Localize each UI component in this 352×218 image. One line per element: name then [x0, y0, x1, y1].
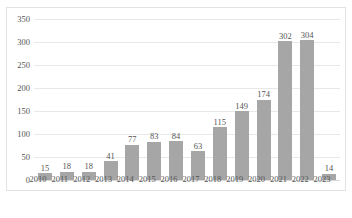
- x-axis-tick-label: 2012: [71, 172, 93, 184]
- bar-series: 151818417783846311514917430230414: [34, 19, 340, 180]
- bar-slot: 83: [143, 19, 165, 180]
- x-axis-tick-label: 2020: [246, 172, 268, 184]
- y-axis-tick-label: 150: [17, 107, 30, 116]
- plot-frame: 050100150200250300350 151818417783846311…: [6, 7, 346, 191]
- bar[interactable]: [257, 100, 271, 180]
- bar-slot: 63: [187, 19, 209, 180]
- bar-slot: 304: [296, 19, 318, 180]
- x-axis-tick-label: 2018: [202, 172, 224, 184]
- x-axis-tick-label: 2010: [27, 172, 49, 184]
- bar-value-label: 115: [214, 118, 226, 127]
- y-axis-tick-label: 200: [17, 84, 30, 93]
- bar-slot: 174: [253, 19, 275, 180]
- x-axis-tick-label: 2013: [93, 172, 115, 184]
- bar[interactable]: [235, 111, 249, 180]
- bar-slot: 18: [56, 19, 78, 180]
- bar-value-label: 18: [84, 162, 93, 171]
- y-axis-tick-label: 100: [17, 130, 30, 139]
- bar-slot: 302: [274, 19, 296, 180]
- bar-slot: 84: [165, 19, 187, 180]
- x-axis-tick-label: 2023: [311, 172, 333, 184]
- x-axis-tick-label: 2011: [49, 172, 71, 184]
- y-axis-tick-label: 50: [22, 153, 31, 162]
- x-axis-tick-label: 2014: [114, 172, 136, 184]
- bar-slot: 77: [121, 19, 143, 180]
- x-axis-tick-label: 2017: [180, 172, 202, 184]
- plot-area: 050100150200250300350 151818417783846311…: [34, 19, 340, 180]
- bar-value-label: 302: [279, 32, 292, 41]
- bar-slot: 14: [318, 19, 340, 180]
- bar-value-label: 18: [63, 162, 72, 171]
- y-axis-tick-label: 300: [17, 38, 30, 47]
- bar-value-label: 149: [235, 102, 248, 111]
- bar-value-label: 63: [194, 142, 203, 151]
- x-axis-labels: 2010201120122013201420152016201720182019…: [27, 172, 333, 186]
- bar-slot: 115: [209, 19, 231, 180]
- bar-value-label: 41: [106, 152, 115, 161]
- bar-value-label: 304: [301, 31, 314, 40]
- bar-chart-figure: 050100150200250300350 151818417783846311…: [0, 0, 352, 218]
- x-axis-tick-label: 2022: [289, 172, 311, 184]
- bar[interactable]: [300, 40, 314, 180]
- bar-value-label: 77: [128, 135, 137, 144]
- bar-value-label: 84: [172, 132, 181, 141]
- bar-slot: 149: [231, 19, 253, 180]
- bar-value-label: 174: [257, 90, 270, 99]
- x-axis-tick-label: 2021: [267, 172, 289, 184]
- x-axis-tick-label: 2016: [158, 172, 180, 184]
- bar-slot: 15: [34, 19, 56, 180]
- bar-slot: 41: [100, 19, 122, 180]
- y-axis-tick-label: 250: [17, 61, 30, 70]
- bar-value-label: 83: [150, 132, 159, 141]
- bar[interactable]: [278, 41, 292, 180]
- x-axis-tick-label: 2015: [136, 172, 158, 184]
- y-axis-tick-label: 350: [17, 15, 30, 24]
- bar-value-label: 15: [41, 164, 50, 173]
- bar-slot: 18: [78, 19, 100, 180]
- x-axis-tick-label: 2019: [224, 172, 246, 184]
